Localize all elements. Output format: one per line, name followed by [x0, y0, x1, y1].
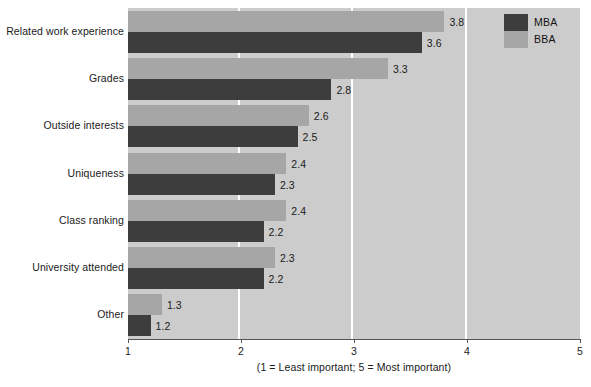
bar-value-bba-1: 3.3 [393, 63, 408, 75]
legend-item-mba[interactable]: MBA [504, 14, 578, 31]
bar-bba-1 [128, 58, 388, 79]
legend-swatch-bba-icon [504, 31, 528, 48]
bar-mba-2 [128, 126, 298, 147]
gridline-4 [465, 8, 467, 339]
bar-mba-0 [128, 32, 422, 53]
bar-bba-0 [128, 11, 444, 32]
bar-bba-2 [128, 105, 309, 126]
legend: MBA BBA [504, 14, 578, 52]
bar-value-mba-1: 2.8 [336, 84, 351, 96]
category-label-3: Uniqueness [0, 167, 124, 179]
bar-value-mba-0: 3.6 [427, 37, 442, 49]
bar-bba-5 [128, 247, 275, 268]
bar-bba-6 [128, 294, 162, 315]
bar-value-mba-6: 1.2 [156, 320, 171, 332]
bar-bba-4 [128, 200, 286, 221]
bar-bba-3 [128, 153, 286, 174]
category-label-5: University attended [0, 261, 124, 273]
legend-item-bba[interactable]: BBA [504, 31, 578, 48]
legend-label-mba: MBA [534, 16, 557, 28]
x-tick-mark-2 [241, 339, 242, 343]
bar-value-bba-3: 2.4 [291, 158, 306, 170]
x-tick-label-1: 1 [118, 345, 138, 357]
bar-chart: 3.83.63.32.82.62.52.42.32.42.22.32.21.31… [0, 0, 591, 387]
x-tick-label-2: 2 [231, 345, 251, 357]
bar-value-bba-6: 1.3 [167, 299, 182, 311]
bar-value-bba-5: 2.3 [280, 252, 295, 264]
bar-value-bba-2: 2.6 [314, 110, 329, 122]
x-tick-mark-1 [128, 339, 129, 343]
bar-value-bba-4: 2.4 [291, 205, 306, 217]
category-label-0: Related work experience [0, 25, 124, 37]
category-label-1: Grades [0, 72, 124, 84]
bar-value-mba-3: 2.3 [280, 179, 295, 191]
category-label-6: Other [0, 308, 124, 320]
bar-value-mba-4: 2.2 [269, 226, 284, 238]
x-tick-mark-3 [354, 339, 355, 343]
x-tick-label-5: 5 [570, 345, 590, 357]
x-tick-mark-4 [467, 339, 468, 343]
bar-mba-6 [128, 315, 151, 336]
x-tick-mark-5 [580, 339, 581, 343]
legend-swatch-mba-icon [504, 14, 528, 31]
x-tick-label-4: 4 [457, 345, 477, 357]
legend-label-bba: BBA [534, 33, 556, 45]
bar-mba-5 [128, 268, 264, 289]
bar-mba-3 [128, 174, 275, 195]
bar-value-mba-5: 2.2 [269, 273, 284, 285]
x-tick-label-3: 3 [344, 345, 364, 357]
bar-mba-4 [128, 221, 264, 242]
bar-value-bba-0: 3.8 [449, 16, 464, 28]
category-axis-labels: Related work experienceGradesOutside int… [0, 8, 124, 339]
bar-value-mba-2: 2.5 [303, 131, 318, 143]
category-label-2: Outside interests [0, 119, 124, 131]
category-label-4: Class ranking [0, 214, 124, 226]
bar-mba-1 [128, 79, 331, 100]
x-axis-caption: (1 = Least important; 5 = Most important… [128, 361, 580, 373]
